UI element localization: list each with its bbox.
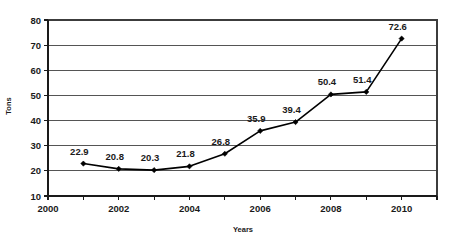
x-tick-label-2004: 2004 (179, 203, 201, 214)
x-axis-title: Years (233, 225, 253, 234)
data-label-2010: 72.6 (388, 21, 407, 32)
chart-canvas: 1020304050607080 20002002200420062008201… (0, 0, 452, 239)
y-tick-label-20: 20 (30, 165, 41, 176)
data-label-2003: 20.3 (141, 152, 160, 163)
x-tick-label-2008: 2008 (320, 203, 341, 214)
chart-background (0, 0, 452, 239)
data-label-2005: 26.8 (212, 136, 231, 147)
y-tick-label-30: 30 (30, 140, 41, 151)
data-label-2008: 50.4 (318, 76, 337, 87)
y-tick-label-10: 10 (30, 191, 41, 202)
y-tick-label-50: 50 (30, 90, 41, 101)
x-tick-label-2002: 2002 (108, 203, 129, 214)
y-axis-title: Tons (4, 97, 13, 114)
y-tick-label-80: 80 (30, 15, 41, 26)
data-label-2009: 51.4 (353, 74, 372, 85)
data-label-2004: 21.8 (176, 148, 195, 159)
line-chart: 1020304050607080 20002002200420062008201… (0, 0, 452, 239)
x-tick-label-2000: 2000 (37, 203, 58, 214)
y-tick-label-70: 70 (30, 40, 41, 51)
data-label-2007: 39.4 (282, 104, 301, 115)
data-label-2006: 35.9 (247, 113, 266, 124)
x-tick-label-2010: 2010 (391, 203, 412, 214)
y-tick-label-40: 40 (30, 115, 41, 126)
data-label-2002: 20.8 (105, 151, 124, 162)
x-tick-label-2006: 2006 (250, 203, 271, 214)
data-label-2001: 22.9 (70, 146, 89, 157)
y-tick-label-60: 60 (30, 65, 41, 76)
